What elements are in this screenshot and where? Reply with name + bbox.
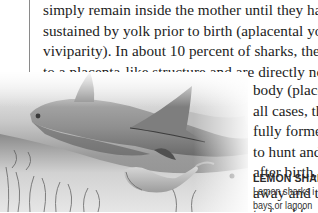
body-paragraph: simply remain inside the mother until th… (43, 0, 318, 82)
photo-caption: LEMON SHAR Lemon sharks i bays or lagoon… (253, 171, 318, 212)
body-line: to hunt and (253, 142, 318, 163)
caption-line: bays or lagoon (253, 199, 313, 213)
body-line: viviparity). In about 10 percent of shar… (43, 41, 318, 62)
body-line: fully forme (253, 121, 318, 142)
caption-line: Lemon sharks i (253, 185, 313, 199)
body-line: all cases, th (253, 101, 318, 122)
body-line: sustained by yolk prior to birth (aplace… (43, 21, 318, 42)
body-line: body (place (253, 80, 318, 101)
lemon-shark-photo (0, 72, 248, 212)
caption-title: LEMON SHAR (253, 171, 318, 185)
body-line: simply remain inside the mother until th… (43, 0, 318, 21)
